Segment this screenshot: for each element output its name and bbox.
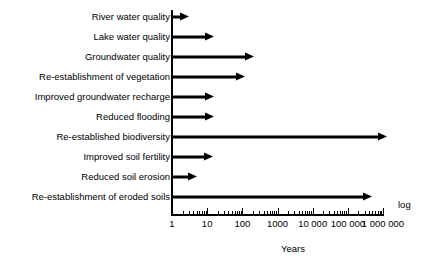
x-axis-tick-minor <box>302 211 303 215</box>
x-axis-tick-label: 10 <box>202 218 213 229</box>
x-axis-tick-minor <box>358 211 359 215</box>
x-axis-line <box>171 214 384 216</box>
x-axis-tick-minor <box>224 211 225 215</box>
x-axis-tick-minor <box>375 211 376 215</box>
x-axis-tick-minor <box>235 211 236 215</box>
x-axis-tick-major <box>383 208 384 214</box>
duration-arrow <box>172 73 245 82</box>
duration-arrow <box>172 113 214 122</box>
duration-arrow <box>172 53 254 62</box>
arrow-shaft <box>172 136 380 139</box>
x-axis-tick-minor <box>259 211 260 215</box>
duration-arrow <box>172 193 372 202</box>
x-axis-tick-minor <box>294 211 295 215</box>
x-axis-tick-minor <box>369 211 370 215</box>
arrow-shaft <box>172 56 247 59</box>
x-axis-tick-minor <box>267 211 268 215</box>
x-axis-tick-minor <box>288 211 289 215</box>
arrow-shaft <box>172 116 207 119</box>
x-axis-tick-minor <box>378 211 379 215</box>
x-axis-tick-minor <box>199 211 200 215</box>
duration-arrow <box>172 13 189 22</box>
x-axis-tick-major <box>242 208 243 214</box>
x-axis-tick-major <box>348 208 349 214</box>
x-axis-tick-minor <box>337 211 338 215</box>
x-axis-tick-minor <box>232 211 233 215</box>
x-axis-tick-minor <box>197 211 198 215</box>
x-axis-tick-minor <box>237 211 238 215</box>
x-axis-tick-major <box>207 208 208 214</box>
x-axis-tick-minor <box>299 211 300 215</box>
duration-arrow <box>172 93 214 102</box>
duration-arrow <box>172 153 213 162</box>
x-axis-tick-minor <box>193 211 194 215</box>
duration-arrow <box>172 33 214 42</box>
arrow-head <box>180 13 189 21</box>
arrow-head <box>245 53 254 61</box>
arrow-head <box>205 33 214 41</box>
x-axis-title: Years <box>281 243 305 254</box>
x-axis-tick-minor <box>189 211 190 215</box>
arrow-head <box>204 153 213 161</box>
x-axis-tick-major <box>172 208 173 214</box>
x-axis-tick-label: 100 <box>234 218 250 229</box>
arrow-shaft <box>172 76 238 79</box>
duration-arrow <box>172 173 197 182</box>
x-axis-tick-minor <box>183 211 184 215</box>
x-axis-tick-minor <box>323 211 324 215</box>
x-axis-tick-label: 1 000 000 <box>362 218 404 229</box>
x-axis-tick-major <box>313 208 314 214</box>
x-axis-tick-label: 1000 <box>267 218 288 229</box>
arrow-head <box>188 173 197 181</box>
x-axis-tick-minor <box>342 211 343 215</box>
x-axis-tick-minor <box>305 211 306 215</box>
x-axis-tick-minor <box>202 211 203 215</box>
log-scale-note: log <box>398 199 411 210</box>
arrow-shaft <box>172 96 207 99</box>
x-axis-tick-minor <box>334 211 335 215</box>
arrow-shaft <box>172 196 365 199</box>
chart-container: River water qualityLake water qualityGro… <box>0 0 440 267</box>
arrow-head <box>205 93 214 101</box>
arrow-head <box>378 133 387 141</box>
arrow-head <box>205 113 214 121</box>
arrow-head <box>363 193 372 201</box>
x-axis-tick-label: 100 000 <box>331 218 365 229</box>
x-axis-tick-minor <box>365 211 366 215</box>
x-axis-tick-minor <box>264 211 265 215</box>
x-axis-tick-major <box>278 208 279 214</box>
x-axis-tick-label: 10 000 <box>298 218 327 229</box>
arrow-shaft <box>172 36 207 39</box>
arrow-head <box>236 73 245 81</box>
x-axis-tick-minor <box>329 211 330 215</box>
x-axis-tick-minor <box>253 211 254 215</box>
arrow-shaft <box>172 156 206 159</box>
x-axis-tick-minor <box>307 211 308 215</box>
x-axis-tick-minor <box>218 211 219 215</box>
duration-arrow <box>172 133 387 142</box>
x-axis-tick-label: 1 <box>169 218 174 229</box>
x-axis-tick-minor <box>372 211 373 215</box>
x-axis-tick-minor <box>228 211 229 215</box>
x-axis-tick-minor <box>270 211 271 215</box>
x-axis-tick-minor <box>272 211 273 215</box>
x-axis-tick-minor <box>340 211 341 215</box>
plot-area: 110100100010 000100 0001 000 000 <box>0 0 440 267</box>
